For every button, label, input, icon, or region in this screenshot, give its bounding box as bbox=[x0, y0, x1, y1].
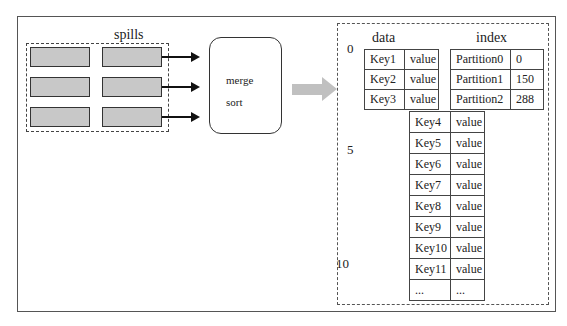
arrow-right-icon bbox=[162, 56, 192, 58]
table-row: Key4value bbox=[410, 112, 485, 133]
table-row: Partition1150 bbox=[451, 70, 544, 90]
data-table-top: Key1value Key2value Key3value bbox=[364, 49, 439, 110]
key-cell: Key7 bbox=[410, 175, 451, 196]
partition-cell: Partition0 bbox=[451, 50, 511, 70]
spill-block bbox=[102, 47, 162, 67]
key-cell: Key2 bbox=[365, 70, 405, 90]
value-cell: value bbox=[405, 90, 439, 110]
value-cell: value bbox=[451, 217, 485, 238]
index-table: Partition00 Partition1150 Partition2288 bbox=[450, 49, 544, 110]
data-table-bottom: Key4value Key5value Key6value Key7value … bbox=[409, 111, 485, 301]
big-arrow-head-icon bbox=[322, 77, 337, 101]
table-row: Partition00 bbox=[451, 50, 544, 70]
spills-label: spills bbox=[114, 28, 144, 42]
table-row: Key6value bbox=[410, 154, 485, 175]
index-label: index bbox=[476, 31, 507, 45]
offset-cell: 150 bbox=[511, 70, 544, 90]
big-arrow-icon bbox=[292, 84, 322, 95]
row-marker: 0 bbox=[347, 42, 354, 55]
key-cell: Key9 bbox=[410, 217, 451, 238]
table-row: ...... bbox=[410, 280, 485, 301]
merge-label: merge bbox=[226, 74, 253, 86]
merge-sort-node: merge sort bbox=[209, 37, 282, 134]
table-row: Key7value bbox=[410, 175, 485, 196]
value-cell: value bbox=[451, 112, 485, 133]
value-cell: value bbox=[451, 196, 485, 217]
key-cell: Key8 bbox=[410, 196, 451, 217]
key-cell: Key10 bbox=[410, 238, 451, 259]
key-cell: Key11 bbox=[410, 259, 451, 280]
arrow-right-icon bbox=[162, 116, 192, 118]
row-marker: 10 bbox=[336, 257, 349, 270]
key-cell: ... bbox=[410, 280, 451, 301]
value-cell: value bbox=[451, 238, 485, 259]
value-cell: value bbox=[451, 175, 485, 196]
spill-block bbox=[30, 107, 90, 127]
spill-block bbox=[30, 77, 90, 97]
data-label: data bbox=[372, 31, 395, 45]
value-cell: ... bbox=[451, 280, 485, 301]
table-row: Key3value bbox=[365, 90, 439, 110]
value-cell: value bbox=[405, 70, 439, 90]
table-row: Key5value bbox=[410, 133, 485, 154]
spill-block bbox=[102, 77, 162, 97]
offset-cell: 0 bbox=[511, 50, 544, 70]
partition-cell: Partition2 bbox=[451, 90, 511, 110]
table-row: Key1value bbox=[365, 50, 439, 70]
arrow-right-icon bbox=[162, 86, 192, 88]
table-row: Key8value bbox=[410, 196, 485, 217]
table-row: Key9value bbox=[410, 217, 485, 238]
key-cell: Key5 bbox=[410, 133, 451, 154]
partition-cell: Partition1 bbox=[451, 70, 511, 90]
offset-cell: 288 bbox=[511, 90, 544, 110]
key-cell: Key6 bbox=[410, 154, 451, 175]
spill-block bbox=[30, 47, 90, 67]
key-cell: Key1 bbox=[365, 50, 405, 70]
key-cell: Key3 bbox=[365, 90, 405, 110]
key-cell: Key4 bbox=[410, 112, 451, 133]
value-cell: value bbox=[451, 133, 485, 154]
table-row: Key10value bbox=[410, 238, 485, 259]
spill-block bbox=[102, 107, 162, 127]
value-cell: value bbox=[451, 154, 485, 175]
row-marker: 5 bbox=[347, 143, 354, 156]
table-row: Partition2288 bbox=[451, 90, 544, 110]
value-cell: value bbox=[451, 259, 485, 280]
sort-label: sort bbox=[226, 96, 243, 108]
value-cell: value bbox=[405, 50, 439, 70]
table-row: Key2value bbox=[365, 70, 439, 90]
table-row: Key11value bbox=[410, 259, 485, 280]
